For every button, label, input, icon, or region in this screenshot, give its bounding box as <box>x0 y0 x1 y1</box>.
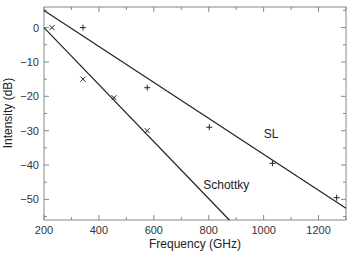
schottky-fit-line <box>44 28 229 220</box>
fit-lines <box>44 10 346 220</box>
cross-marker <box>80 77 85 82</box>
cross-marker <box>145 128 150 133</box>
x-tick-label: 1200 <box>306 224 330 236</box>
x-tick-label: 1000 <box>251 224 275 236</box>
x-tick-label: 600 <box>145 224 163 236</box>
plus-marker <box>144 85 150 91</box>
plot-border <box>44 7 346 220</box>
plus-marker <box>80 25 86 31</box>
y-tick-label: −50 <box>20 193 39 205</box>
plot-frame <box>44 7 346 220</box>
x-tick-label: 400 <box>90 224 108 236</box>
chart: 200400600800100012000−10−20−30−40−50 SLS… <box>0 0 355 258</box>
annotation-schottky: Schottky <box>203 178 249 192</box>
x-tick-label: 200 <box>35 224 53 236</box>
y-tick-label: −10 <box>20 56 39 68</box>
annotation-sl: SL <box>264 127 279 141</box>
y-tick-label: −30 <box>20 125 39 137</box>
axis-ticks: 200400600800100012000−10−20−30−40−50 <box>20 7 346 236</box>
data-markers <box>49 25 339 201</box>
x-tick-label: 800 <box>200 224 218 236</box>
plus-marker <box>206 124 212 130</box>
x-axis-label: Frequency (GHz) <box>149 237 241 251</box>
y-axis-label: Intensity (dB) <box>1 78 15 149</box>
plus-marker <box>334 195 340 201</box>
y-tick-label: 0 <box>33 22 39 34</box>
sl-fit-line <box>44 10 346 208</box>
y-tick-label: −20 <box>20 90 39 102</box>
y-tick-label: −40 <box>20 159 39 171</box>
cross-marker <box>49 25 54 30</box>
annotations: SLSchottky <box>203 127 278 193</box>
